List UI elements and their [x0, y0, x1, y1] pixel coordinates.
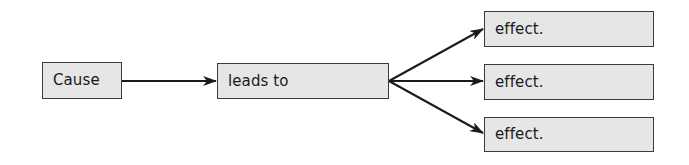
effect-label-1: effect. [495, 22, 544, 37]
arrow-leads-to-effect-1 [389, 29, 483, 81]
effect-node-1: effect. [484, 11, 654, 47]
effect-node-2: effect. [484, 64, 654, 100]
cause-node: Cause [42, 62, 122, 99]
cause-label: Cause [53, 73, 100, 88]
leads-to-label: leads to [228, 74, 289, 89]
cause-effect-diagram: Cause leads to effect. effect. effect. [0, 0, 689, 165]
arrow-leads-to-effect-3 [389, 81, 483, 133]
effect-label-3: effect. [495, 127, 544, 142]
leads-to-node: leads to [217, 63, 389, 99]
effect-label-2: effect. [495, 75, 544, 90]
effect-node-3: effect. [484, 117, 654, 152]
